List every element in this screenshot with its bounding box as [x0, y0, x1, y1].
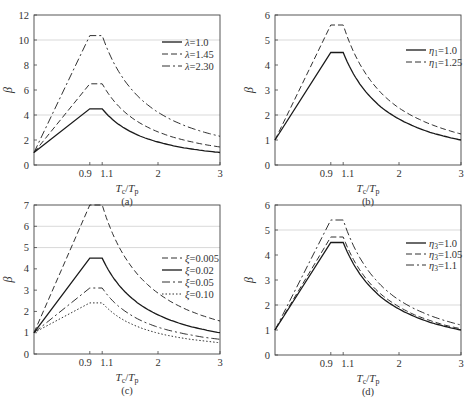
x-tick-label: 3 — [217, 168, 222, 179]
panel-c: 012345670.91.123βTc/Tp(c)ξ=0.005ξ=0.02ξ=… — [1, 200, 223, 398]
series-line — [275, 25, 461, 140]
y-tick-label: 4 — [24, 263, 30, 274]
y-tick-label: 10 — [19, 35, 30, 46]
y-tick-label: 6 — [265, 200, 270, 211]
panel-d: 01234560.91.123βTc/Tp(d)η3=1.0η3=1.05η3=… — [242, 200, 464, 399]
x-axis-label: Tc/Tp — [357, 372, 380, 386]
y-tick-label: 3 — [265, 275, 270, 286]
y-tick-label: 2 — [24, 306, 29, 317]
y-tick-label: 1 — [265, 135, 270, 146]
legend-label: η1=1.25 — [429, 57, 462, 70]
panel-a: 0246810120.91.123βTc/Tp(a)λ=1.0λ=1.45λ=2… — [1, 10, 223, 209]
plot-frame — [275, 15, 461, 165]
y-tick-label: 4 — [24, 110, 30, 121]
x-axis-label: Tc/Tp — [116, 371, 139, 385]
legend-label: ξ=0.02 — [185, 265, 214, 277]
y-tick-label: 6 — [24, 221, 29, 232]
x-tick-label: 1.1 — [341, 168, 354, 179]
y-tick-label: 8 — [24, 60, 29, 71]
y-tick-label: 1 — [24, 327, 29, 338]
y-tick-label: 3 — [265, 85, 270, 96]
y-tick-label: 1 — [265, 325, 270, 336]
y-tick-label: 0 — [24, 349, 29, 360]
y-tick-label: 2 — [265, 300, 270, 311]
y-tick-label: 6 — [24, 85, 29, 96]
panel-b: 01234560.91.123βTc/Tp(b)η1=1.0η1=1.25 — [242, 10, 464, 209]
y-tick-label: 5 — [24, 242, 29, 253]
x-tick-label: 3 — [458, 358, 463, 369]
y-tick-label: 5 — [265, 225, 270, 236]
x-tick-label: 2 — [155, 357, 160, 368]
y-tick-label: 12 — [19, 10, 30, 21]
legend-label: ξ=0.05 — [185, 277, 214, 289]
y-tick-label: 5 — [265, 35, 270, 46]
y-tick-label: 0 — [24, 160, 29, 171]
x-tick-label: 2 — [155, 168, 160, 179]
legend-label: ξ=0.005 — [185, 253, 219, 265]
x-tick-label: 0.9 — [320, 358, 333, 369]
y-tick-label: 7 — [24, 200, 29, 211]
y-tick-label: 4 — [265, 250, 271, 261]
y-tick-label: 6 — [265, 10, 270, 21]
x-tick-label: 1.1 — [100, 357, 113, 368]
legend-label: λ=2.30 — [184, 61, 214, 72]
legend-label: λ=1.45 — [184, 49, 214, 60]
y-axis-label: β — [242, 277, 256, 284]
legend-label: λ=1.0 — [184, 37, 209, 48]
x-tick-label: 1.1 — [100, 168, 113, 179]
y-tick-label: 2 — [265, 110, 270, 121]
x-tick-label: 0.9 — [320, 168, 333, 179]
y-tick-label: 0 — [265, 160, 270, 171]
x-tick-label: 2 — [396, 168, 401, 179]
x-tick-label: 3 — [458, 168, 463, 179]
x-tick-label: 2 — [396, 358, 401, 369]
y-axis-label: β — [1, 87, 15, 94]
x-tick-label: 1.1 — [341, 358, 354, 369]
x-axis-label: Tc/Tp — [357, 182, 380, 196]
y-axis-label: β — [242, 87, 256, 94]
panel-label: (c) — [121, 385, 133, 397]
plot-frame — [275, 205, 461, 355]
series-line — [34, 303, 220, 343]
x-tick-label: 3 — [217, 357, 222, 368]
y-tick-label: 2 — [24, 135, 29, 146]
panel-label: (a) — [121, 196, 133, 208]
panel-label: (b) — [362, 196, 375, 208]
legend-label: η3=1.1 — [429, 260, 457, 273]
series-line — [275, 220, 461, 330]
x-axis-label: Tc/Tp — [116, 182, 139, 196]
x-tick-label: 0.9 — [79, 357, 92, 368]
x-tick-label: 0.9 — [79, 168, 92, 179]
panel-label: (d) — [362, 386, 375, 398]
y-tick-label: 3 — [24, 285, 29, 296]
legend-label: ξ=0.10 — [185, 289, 214, 301]
y-tick-label: 0 — [265, 350, 270, 361]
y-axis-label: β — [1, 276, 15, 283]
figure: 0246810120.91.123βTc/Tp(a)λ=1.0λ=1.45λ=2… — [0, 0, 472, 400]
y-tick-label: 4 — [265, 60, 271, 71]
